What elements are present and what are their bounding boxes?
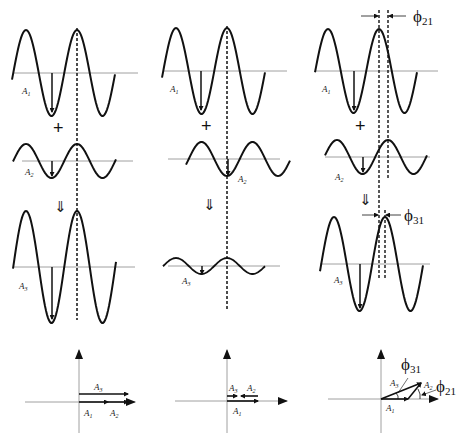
plus-operator: +: [53, 118, 64, 138]
label-a1: A1: [321, 84, 331, 95]
result-arrow: ⇓: [203, 196, 216, 214]
wave-a3: A3: [13, 211, 135, 323]
result-arrow: ⇓: [54, 198, 67, 216]
column-phase-shifted: A1 + A2 ⇓ A3 ϕ21 ϕ31: [315, 7, 456, 433]
phasor-diagram-in-phase: A3 A1 A2: [25, 350, 135, 433]
phasor-diagram-anti-phase: A3 A2 A1: [175, 350, 287, 433]
wave-a3: A3: [320, 217, 430, 311]
label-a1: A1: [169, 84, 179, 95]
label-a2: A2: [334, 172, 344, 183]
phasor-phi31-label: ϕ31: [401, 355, 421, 375]
phasor-label-a3: A3: [93, 382, 103, 393]
phasor-label-a2: A2: [423, 380, 433, 391]
phi31-label: ϕ31: [404, 206, 424, 226]
wave-superposition-diagram: A1 + A2 ⇓ A3 A3 A1 A2: [0, 0, 465, 445]
phasor-phi21-label: ϕ21: [436, 377, 456, 397]
label-a3: A3: [333, 275, 343, 286]
wave-a2: A2: [325, 140, 430, 183]
wave-a3: A3: [163, 258, 280, 287]
phasor-label-a3: A3: [228, 383, 238, 394]
wave-a1: A1: [12, 30, 138, 116]
wave-a1: A1: [315, 29, 438, 113]
phi21-label: ϕ21: [413, 7, 433, 27]
plus-operator: +: [201, 116, 212, 136]
phasor-label-a1: A1: [385, 403, 395, 414]
phasor-label-a1: A1: [83, 408, 93, 419]
phasor-label-a2: A2: [109, 408, 119, 419]
phasor-label-a1: A1: [232, 406, 242, 417]
wave-a2: A2: [13, 144, 133, 178]
phasor-label-a3: A3: [389, 378, 399, 389]
column-in-phase: A1 + A2 ⇓ A3 A3 A1 A2: [12, 28, 138, 433]
label-a2: A2: [237, 174, 247, 185]
label-a3: A3: [18, 281, 28, 292]
wave-a1: A1: [162, 28, 287, 114]
plus-operator: +: [355, 116, 366, 136]
wave-a2: A2: [168, 142, 290, 185]
column-anti-phase: A1 + A2 ⇓ A3 A3 A2 A1: [162, 26, 290, 433]
phase-shift-21-indicator: ϕ21: [361, 7, 433, 27]
label-a2: A2: [24, 167, 34, 178]
label-a1: A1: [21, 86, 31, 97]
result-arrow: ⇓: [359, 191, 372, 209]
phasor-label-a2: A2: [246, 383, 256, 394]
label-a3: A3: [181, 276, 191, 287]
phasor-diagram-phase-shifted: A3 A2 A1 ϕ31 ϕ21: [328, 350, 456, 433]
phase-shift-31-indicator: ϕ31: [362, 206, 424, 226]
